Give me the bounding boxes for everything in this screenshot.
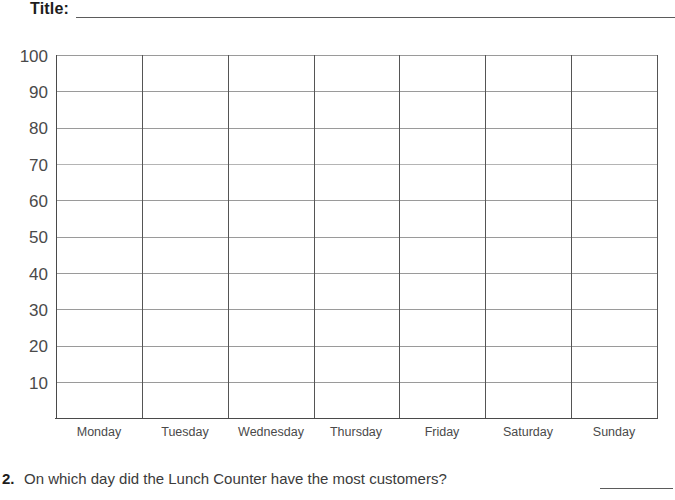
gridline-100 — [56, 55, 657, 56]
y-axis-tick-label: 100 — [0, 48, 48, 65]
column-divider — [228, 55, 229, 418]
gridline-40 — [56, 273, 657, 274]
column-divider — [399, 55, 400, 418]
x-axis-tick-label-thursday: Thursday — [313, 426, 399, 439]
question-answer-blank[interactable] — [600, 488, 673, 489]
column-divider — [142, 55, 143, 418]
question-number: 2. — [2, 470, 15, 487]
gridline-30 — [56, 309, 657, 310]
title-row: Title: — [0, 0, 675, 30]
y-axis-tick-label: 30 — [0, 302, 48, 319]
gridline-60 — [56, 200, 657, 201]
plot-right-border — [657, 55, 658, 418]
gridline-70 — [56, 164, 657, 165]
x-axis-tick-label-sunday: Sunday — [571, 426, 657, 439]
x-axis-line — [55, 418, 658, 419]
x-axis-tick-label-wednesday: Wednesday — [228, 426, 314, 439]
column-divider — [485, 55, 486, 418]
y-axis-tick-label: 70 — [0, 157, 48, 174]
y-axis-tick-label: 20 — [0, 338, 48, 355]
question-row: 2. On which day did the Lunch Counter ha… — [0, 468, 675, 500]
x-axis-tick-label-saturday: Saturday — [485, 426, 571, 439]
y-axis-tick-label: 80 — [0, 120, 48, 137]
gridline-90 — [56, 91, 657, 92]
y-axis-tick-label: 90 — [0, 84, 48, 101]
y-axis-tick-label: 50 — [0, 229, 48, 246]
gridline-10 — [56, 382, 657, 383]
y-axis-tick-label: 40 — [0, 266, 48, 283]
column-divider — [314, 55, 315, 418]
x-axis-tick-label-monday: Monday — [56, 426, 142, 439]
y-axis-tick-label: 10 — [0, 375, 48, 392]
column-divider — [571, 55, 572, 418]
plot-area[interactable] — [56, 55, 657, 418]
title-label: Title: — [30, 0, 69, 18]
y-axis-line — [56, 55, 57, 418]
x-axis-tick-label-friday: Friday — [399, 426, 485, 439]
bar-chart-grid: 100 90 80 70 60 50 40 30 20 10 Monday Tu… — [0, 36, 675, 436]
gridline-50 — [56, 237, 657, 238]
title-answer-blank[interactable] — [76, 17, 675, 18]
y-axis-tick-label: 60 — [0, 193, 48, 210]
question-text: On which day did the Lunch Counter have … — [24, 470, 447, 487]
gridline-20 — [56, 346, 657, 347]
gridline-80 — [56, 128, 657, 129]
x-axis-tick-label-tuesday: Tuesday — [142, 426, 228, 439]
